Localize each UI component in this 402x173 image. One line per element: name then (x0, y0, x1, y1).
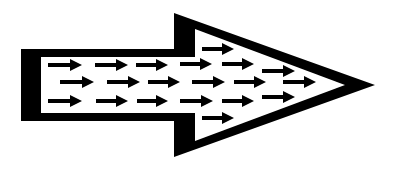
block-arrow-diagram (0, 0, 402, 173)
diagram-svg (0, 0, 402, 173)
